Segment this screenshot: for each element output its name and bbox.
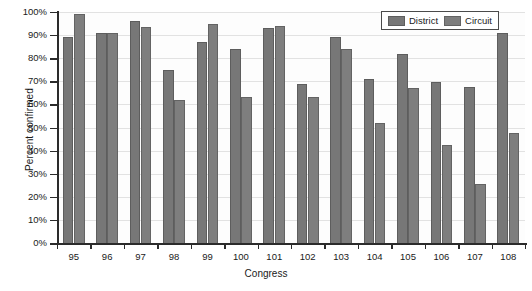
bar-circuit-102	[308, 97, 319, 243]
gridline	[57, 197, 525, 198]
x-axis-tick	[258, 243, 259, 249]
y-axis-tick	[50, 12, 57, 13]
bar-district-104	[364, 79, 375, 243]
bar-circuit-98	[174, 100, 185, 243]
x-axis-tick-label-96: 96	[102, 251, 113, 262]
x-axis-tick-label-103: 103	[333, 251, 349, 262]
x-axis-tick	[358, 243, 359, 249]
y-axis-tick	[50, 81, 57, 82]
x-axis-tick-label-97: 97	[135, 251, 146, 262]
y-axis-tick-label: 80%	[0, 52, 47, 63]
x-axis-tick	[157, 243, 158, 249]
legend-swatch-district-icon	[388, 16, 405, 26]
legend-label-district: District	[409, 15, 438, 26]
plot-area	[57, 12, 525, 243]
y-axis-tick	[50, 35, 57, 36]
x-axis-tick	[425, 243, 426, 249]
bar-district-100	[230, 49, 241, 243]
x-axis-tick-label-104: 104	[367, 251, 383, 262]
y-axis-tick	[50, 58, 57, 59]
y-axis-tick-label: 0%	[0, 237, 47, 248]
bar-circuit-101	[275, 26, 286, 243]
bar-circuit-104	[375, 123, 386, 243]
x-axis-tick-label-100: 100	[233, 251, 249, 262]
bar-district-97	[130, 21, 141, 243]
legend-swatch-circuit-icon	[444, 16, 461, 26]
bar-circuit-108	[509, 133, 520, 243]
x-axis-tick-label-105: 105	[400, 251, 416, 262]
y-axis-tick	[50, 151, 57, 152]
bar-district-101	[263, 28, 274, 243]
x-axis-tick	[124, 243, 125, 249]
x-axis-tick	[191, 243, 192, 249]
x-axis-tick-label-101: 101	[266, 251, 282, 262]
y-axis-tick-label: 100%	[0, 6, 47, 17]
y-axis-tick-label: 20%	[0, 191, 47, 202]
x-axis-tick	[57, 243, 58, 249]
y-axis-tick	[50, 128, 57, 129]
x-axis-tick	[90, 243, 91, 249]
gridline	[57, 35, 525, 36]
bar-circuit-106	[442, 145, 453, 243]
y-axis-tick	[50, 104, 57, 105]
gridline	[57, 220, 525, 221]
bar-district-103	[330, 37, 341, 243]
x-axis-line	[50, 243, 527, 245]
bar-district-106	[431, 82, 442, 243]
y-axis-tick-label: 50%	[0, 122, 47, 133]
gridline	[57, 58, 525, 59]
chart-legend: District Circuit	[381, 11, 499, 30]
bar-chart: Percent confirmed 0%10%20%30%40%50%60%70…	[0, 0, 532, 291]
x-axis-tick	[224, 243, 225, 249]
x-axis-tick	[492, 243, 493, 249]
x-axis-tick-label-99: 99	[202, 251, 213, 262]
x-axis-tick-label-98: 98	[169, 251, 180, 262]
gridline	[57, 81, 525, 82]
bar-circuit-107	[475, 184, 486, 243]
bar-district-105	[397, 54, 408, 243]
bar-circuit-99	[208, 24, 219, 243]
bar-district-96	[96, 33, 107, 243]
legend-item-district: District	[388, 15, 438, 26]
x-axis-tick-label-95: 95	[68, 251, 79, 262]
x-axis-tick-label-107: 107	[467, 251, 483, 262]
x-axis-tick-label-102: 102	[300, 251, 316, 262]
y-axis-tick-label: 90%	[0, 29, 47, 40]
bar-circuit-100	[241, 97, 252, 243]
y-axis-tick-label: 60%	[0, 98, 47, 109]
y-axis-tick	[50, 174, 57, 175]
y-axis-line	[57, 11, 59, 244]
x-axis-tick	[525, 243, 526, 249]
bar-circuit-105	[408, 88, 419, 243]
bar-district-108	[497, 33, 508, 243]
bar-circuit-95	[74, 14, 85, 243]
x-axis-title: Congress	[0, 268, 532, 279]
x-axis-tick-label-106: 106	[433, 251, 449, 262]
gridline	[57, 104, 525, 105]
bar-circuit-103	[341, 49, 352, 243]
bar-district-95	[63, 37, 74, 243]
legend-label-circuit: Circuit	[465, 15, 492, 26]
y-axis-tick	[50, 197, 57, 198]
bar-district-102	[297, 84, 308, 243]
bar-district-99	[197, 42, 208, 243]
bar-district-98	[163, 70, 174, 243]
x-axis-tick-label-108: 108	[500, 251, 516, 262]
gridline	[57, 151, 525, 152]
y-axis-tick-label: 10%	[0, 214, 47, 225]
bar-circuit-97	[141, 27, 152, 243]
bar-district-107	[464, 87, 475, 243]
gridline	[57, 174, 525, 175]
gridline	[57, 128, 525, 129]
x-axis-tick	[391, 243, 392, 249]
x-axis-tick	[291, 243, 292, 249]
legend-item-circuit: Circuit	[444, 15, 492, 26]
bar-circuit-96	[107, 33, 118, 243]
y-axis-tick-label: 70%	[0, 75, 47, 86]
y-axis-tick	[50, 220, 57, 221]
y-axis-tick-label: 30%	[0, 168, 47, 179]
x-axis-tick	[324, 243, 325, 249]
x-axis-tick	[458, 243, 459, 249]
y-axis-tick-label: 40%	[0, 145, 47, 156]
